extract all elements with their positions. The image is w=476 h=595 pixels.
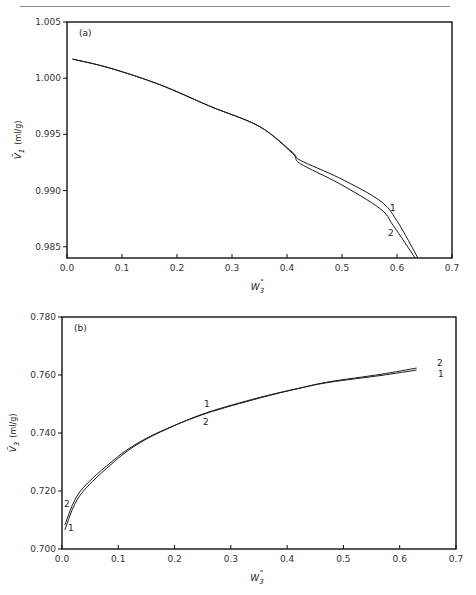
x-tick-label: 0.1 (111, 554, 125, 564)
curve-2 (65, 368, 417, 525)
curve-label: 2 (388, 228, 394, 238)
x-tick-label: 0.6 (390, 263, 405, 273)
y-tick-label: 1.000 (35, 73, 61, 83)
figure: 0.00.10.20.30.40.50.60.71.0051.0000.9950… (0, 0, 476, 595)
y-tick-label: 0.985 (35, 242, 61, 252)
curve-2 (73, 59, 416, 258)
x-tick-label: 0.7 (445, 263, 459, 273)
x-tick-label: 0.0 (55, 554, 70, 564)
plot-frame (67, 22, 452, 258)
x-tick-label: 0.6 (393, 554, 408, 564)
y-tick-label: 0.990 (35, 186, 61, 196)
y-tick-label: 0.780 (30, 312, 56, 322)
curve-1 (73, 59, 418, 258)
x-tick-label: 0.2 (170, 263, 184, 273)
y-axis-title: V̄3(ml/g) (7, 414, 21, 453)
curve-label: 1 (204, 399, 210, 409)
curve-label: 1 (438, 369, 444, 379)
plot-frame (62, 317, 456, 549)
x-tick-label: 0.5 (336, 554, 350, 564)
curve-label: 1 (390, 203, 396, 213)
y-tick-label: 0.995 (35, 129, 61, 139)
y-tick-label: 0.700 (30, 544, 56, 554)
curve-label: 1 (68, 523, 74, 533)
curve-label: 2 (64, 499, 70, 509)
x-tick-label: 0.4 (280, 554, 295, 564)
x-tick-label: 0.5 (335, 263, 349, 273)
x-tick-label: 0.2 (167, 554, 181, 564)
y-tick-label: 0.740 (30, 428, 56, 438)
curve-label: 2 (437, 358, 443, 368)
panel-label: (a) (79, 28, 92, 38)
x-tick-label: 0.3 (224, 554, 238, 564)
x-tick-label: 0.1 (115, 263, 129, 273)
y-tick-label: 0.720 (30, 486, 56, 496)
panel-label: (b) (74, 323, 87, 333)
x-axis-title: W3° (250, 569, 263, 586)
curve-label: 2 (203, 417, 209, 427)
panel-b: 0.00.10.20.30.40.50.60.70.7800.7600.7400… (7, 312, 463, 586)
y-tick-label: 0.760 (30, 370, 56, 380)
x-tick-label: 0.7 (449, 554, 463, 564)
x-tick-label: 0.4 (280, 263, 295, 273)
panel-a: 0.00.10.20.30.40.50.60.71.0051.0000.9950… (12, 17, 459, 295)
curve-1 (65, 370, 417, 530)
x-tick-label: 0.0 (60, 263, 75, 273)
y-tick-label: 1.005 (35, 17, 61, 27)
x-tick-label: 0.3 (225, 263, 239, 273)
y-axis-title: V̄1(ml/g) (12, 121, 26, 160)
x-axis-title: W3° (251, 278, 264, 295)
